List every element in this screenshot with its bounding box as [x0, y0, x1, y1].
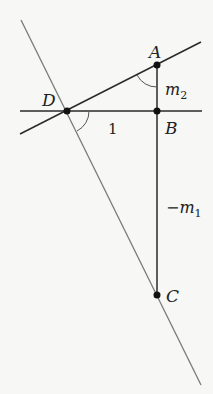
label-b: B — [164, 118, 178, 138]
angle-arc-d — [77, 111, 89, 131]
label-segment-ab: m2 — [165, 80, 187, 102]
angle-arc-a — [137, 75, 157, 87]
subscript: 1 — [195, 207, 202, 220]
label-a: A — [147, 42, 161, 62]
point-b — [154, 108, 161, 115]
label-c: C — [166, 286, 179, 306]
label-segment-bc: −m1 — [166, 198, 202, 220]
label-d: D — [41, 90, 56, 110]
geometry-diagram: A B C D 1 m2 −m1 — [0, 0, 213, 394]
point-a — [154, 62, 161, 69]
point-d — [64, 108, 71, 115]
point-c — [154, 292, 161, 299]
label-segment-db: 1 — [108, 120, 118, 138]
subscript: 2 — [180, 89, 187, 102]
